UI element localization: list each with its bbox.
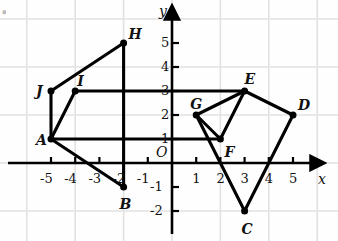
x-tick-label--2: -2 <box>113 172 126 185</box>
point-C <box>241 208 248 215</box>
point-E <box>241 88 248 95</box>
coordinate-plane-figure: • ABCDEFGHIJ-5-4-3-2-112345-2-112345xyO <box>0 0 338 241</box>
point-J <box>48 88 55 95</box>
x-axis-name: x <box>318 172 326 186</box>
point-label-F: F <box>224 145 234 159</box>
point-label-C: C <box>242 222 253 236</box>
point-label-G: G <box>190 97 202 111</box>
point-label-D: D <box>298 98 310 112</box>
x-tick-label-1: 1 <box>192 172 200 185</box>
point-label-A: A <box>36 133 47 147</box>
point-A <box>48 136 55 143</box>
point-label-J: J <box>36 84 43 98</box>
point-label-E: E <box>245 72 256 86</box>
y-axis-name: y <box>159 4 167 18</box>
y-tick-label-3: 3 <box>161 84 169 97</box>
x-tick-label-3: 3 <box>241 172 249 185</box>
point-label-B: B <box>120 197 132 211</box>
point-F <box>217 136 224 143</box>
point-G <box>193 112 200 119</box>
origin-label: O <box>156 145 167 159</box>
y-tick-label--2: -2 <box>150 204 163 217</box>
x-tick-label--5: -5 <box>40 172 53 185</box>
x-tick-label-5: 5 <box>289 172 297 185</box>
x-tick-label-4: 4 <box>265 172 273 185</box>
point-D <box>290 112 297 119</box>
x-tick-label-2: 2 <box>216 172 224 185</box>
segment-G-F <box>196 115 220 139</box>
point-H <box>120 40 127 47</box>
y-tick-label-2: 2 <box>161 108 169 121</box>
x-tick-label--1: -1 <box>137 172 150 185</box>
point-label-H: H <box>129 27 142 41</box>
x-tick-label--4: -4 <box>64 172 77 185</box>
point-label-I: I <box>77 74 84 88</box>
y-tick-label-4: 4 <box>161 60 169 73</box>
y-tick-label--1: -1 <box>150 180 163 193</box>
x-tick-label--3: -3 <box>88 172 101 185</box>
y-tick-label-5: 5 <box>161 36 169 49</box>
